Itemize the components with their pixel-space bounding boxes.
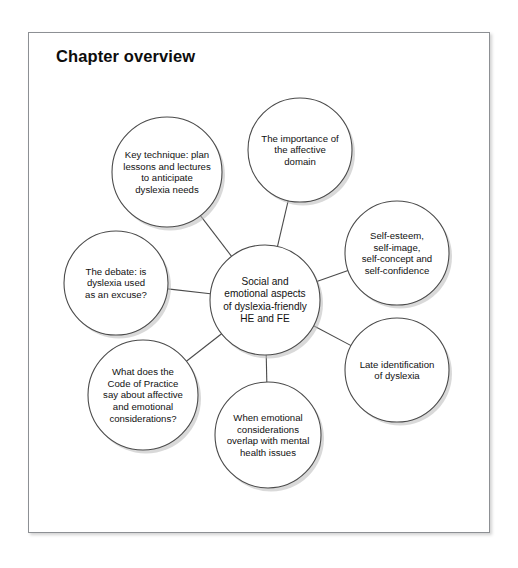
mind-map-svg: Social andemotional aspectsof dyslexia-f… (28, 32, 490, 533)
connector-key-technique (200, 216, 231, 257)
connector-self-esteem (317, 270, 348, 281)
connector-code-of-practice (186, 334, 221, 361)
node-label: What does theCode of Practicesay about a… (103, 366, 183, 423)
page-root: Chapter overview Social andemotional asp… (0, 0, 518, 568)
node-label: Self-esteem,self-image,self-concept ands… (362, 230, 432, 276)
connector-the-debate (168, 289, 211, 294)
connector-affective-domain (277, 201, 288, 247)
connector-late-identification (314, 326, 351, 346)
mind-map-diagram: Social andemotional aspectsof dyslexia-f… (28, 32, 490, 533)
connector-mental-health (266, 355, 267, 382)
circle-nodes: Social andemotional aspectsof dyslexia-f… (64, 98, 449, 488)
node-label: The debate: isdyslexia usedas an excuse? (85, 266, 147, 300)
